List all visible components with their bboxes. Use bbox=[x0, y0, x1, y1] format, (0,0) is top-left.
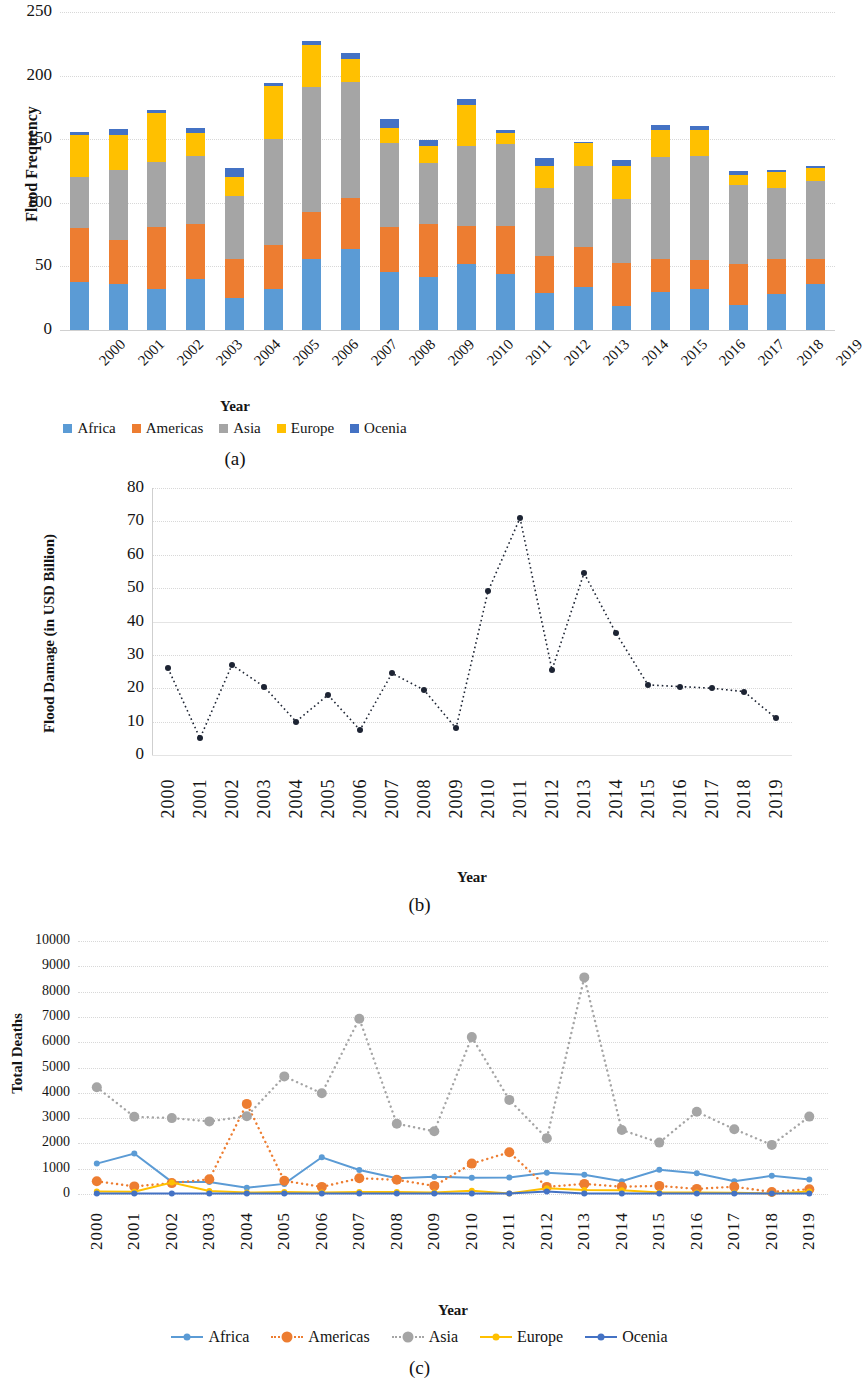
legend-marker-icon bbox=[282, 1332, 293, 1343]
x-tick-label: 2017 bbox=[755, 336, 788, 369]
y-tick-label: 1000 bbox=[0, 1160, 70, 1176]
bar-segment-europe bbox=[70, 135, 89, 177]
panel-a-y-axis-title: Flood Frequency bbox=[23, 84, 41, 244]
series-marker-ocenia bbox=[244, 1191, 250, 1197]
legend-item-europe: Europe bbox=[480, 1328, 563, 1346]
gridline bbox=[152, 755, 792, 756]
x-tick-label: 2016 bbox=[670, 775, 691, 823]
x-tick-label: 2005 bbox=[318, 775, 339, 823]
series-marker-asia bbox=[617, 1125, 627, 1135]
series-line-asia bbox=[97, 977, 810, 1145]
series-marker-ocenia bbox=[506, 1191, 512, 1197]
series-marker-africa bbox=[506, 1175, 512, 1181]
series-marker-africa bbox=[469, 1175, 475, 1181]
x-tick-label: 2009 bbox=[445, 336, 478, 369]
legend-label: Africa bbox=[208, 1328, 249, 1346]
bar-segment-africa bbox=[70, 282, 89, 330]
bar-segment-asia bbox=[690, 156, 709, 260]
bar-segment-ocenia bbox=[302, 41, 321, 45]
gridline bbox=[60, 203, 835, 204]
bar-segment-americas bbox=[70, 228, 89, 281]
series-marker-asia bbox=[129, 1112, 139, 1122]
bar-segment-asia bbox=[109, 170, 128, 240]
legend-label: Asia bbox=[233, 420, 261, 437]
panel-a-x-axis-title: Year bbox=[0, 398, 470, 415]
x-tick-label: 2003 bbox=[254, 775, 275, 823]
series-marker-europe bbox=[169, 1180, 175, 1186]
bar-segment-americas bbox=[574, 247, 593, 286]
bar-segment-europe bbox=[225, 177, 244, 196]
bar-column bbox=[651, 12, 670, 330]
panel-b-flood-damage: Flood Damage (in USD Billion) 0102030405… bbox=[0, 470, 839, 925]
bar-segment-asia bbox=[729, 185, 748, 264]
gridline bbox=[60, 139, 835, 140]
gridline bbox=[60, 330, 835, 331]
x-tick-label: 2019 bbox=[766, 775, 787, 823]
x-tick-label: 2006 bbox=[350, 775, 371, 823]
y-tick-label: 50 bbox=[0, 255, 52, 275]
panel-a-caption: (a) bbox=[0, 448, 470, 470]
panel-c-y-axis-title: Total Deaths bbox=[9, 984, 26, 1124]
x-tick-label: 2016 bbox=[716, 336, 749, 369]
gridline bbox=[60, 12, 835, 13]
series-marker-americas bbox=[654, 1181, 664, 1191]
bar-segment-americas bbox=[612, 263, 631, 306]
series-marker-ocenia bbox=[281, 1191, 287, 1197]
bar-segment-americas bbox=[806, 259, 825, 284]
series-marker-asia bbox=[279, 1071, 289, 1081]
bar-segment-asia bbox=[341, 82, 360, 198]
americas-swatch-icon bbox=[132, 424, 141, 433]
bar-segment-europe bbox=[419, 146, 438, 164]
series-marker-ocenia bbox=[431, 1191, 437, 1197]
series-marker-asia bbox=[392, 1119, 402, 1129]
series-marker-asia bbox=[92, 1082, 102, 1092]
x-tick-label: 2010 bbox=[478, 775, 499, 823]
x-tick-label: 2013 bbox=[574, 1207, 594, 1255]
deaths-series-group bbox=[78, 941, 828, 1194]
series-marker-africa bbox=[356, 1167, 362, 1173]
bar-segment-americas bbox=[147, 227, 166, 289]
y-tick-label: 200 bbox=[0, 65, 52, 85]
series-marker-asia bbox=[579, 972, 589, 982]
legend-marker-icon bbox=[402, 1332, 413, 1343]
x-tick-label: 2007 bbox=[367, 336, 400, 369]
series-marker-africa bbox=[769, 1173, 775, 1179]
bar-segment-africa bbox=[457, 264, 476, 330]
series-marker-asia bbox=[504, 1095, 514, 1105]
bar-column bbox=[574, 12, 593, 330]
bar-segment-ocenia bbox=[70, 132, 89, 136]
series-marker-africa bbox=[94, 1161, 100, 1167]
bar-column bbox=[186, 12, 205, 330]
legend-line-asia-icon bbox=[392, 1332, 424, 1342]
panel-c-x-axis-title: Year bbox=[78, 1302, 828, 1319]
bar-segment-ocenia bbox=[419, 140, 438, 145]
bar-segment-europe bbox=[767, 172, 786, 187]
series-marker-africa bbox=[581, 1172, 587, 1178]
x-tick-label: 2004 bbox=[286, 775, 307, 823]
bar-segment-asia bbox=[302, 87, 321, 212]
bar-segment-asia bbox=[70, 177, 89, 228]
x-tick-label: 2014 bbox=[639, 336, 672, 369]
x-tick-label: 2005 bbox=[274, 1207, 294, 1255]
bar-segment-africa bbox=[419, 277, 438, 330]
legend-item-ocenia: Ocenia bbox=[350, 420, 406, 437]
panel-c-plot-area bbox=[78, 941, 828, 1194]
y-tick-label: 0 bbox=[104, 744, 144, 764]
data-point bbox=[261, 684, 267, 690]
x-tick-label: 2019 bbox=[799, 1207, 819, 1255]
bar-segment-ocenia bbox=[535, 158, 554, 166]
bar-segment-europe bbox=[457, 105, 476, 146]
series-marker-asia bbox=[729, 1124, 739, 1134]
legend-item-asia: Asia bbox=[219, 420, 261, 437]
bar-segment-europe bbox=[302, 45, 321, 87]
series-marker-ocenia bbox=[581, 1191, 587, 1197]
series-line-africa bbox=[97, 1154, 810, 1188]
series-marker-ocenia bbox=[769, 1191, 775, 1197]
bar-segment-europe bbox=[651, 130, 670, 157]
panel-b-x-axis-title: Year bbox=[152, 869, 792, 886]
x-tick-label: 2019 bbox=[832, 336, 865, 369]
legend-label: Africa bbox=[77, 420, 115, 437]
bar-segment-asia bbox=[574, 166, 593, 247]
x-tick-label: 2015 bbox=[677, 336, 710, 369]
series-marker-ocenia bbox=[544, 1189, 550, 1195]
